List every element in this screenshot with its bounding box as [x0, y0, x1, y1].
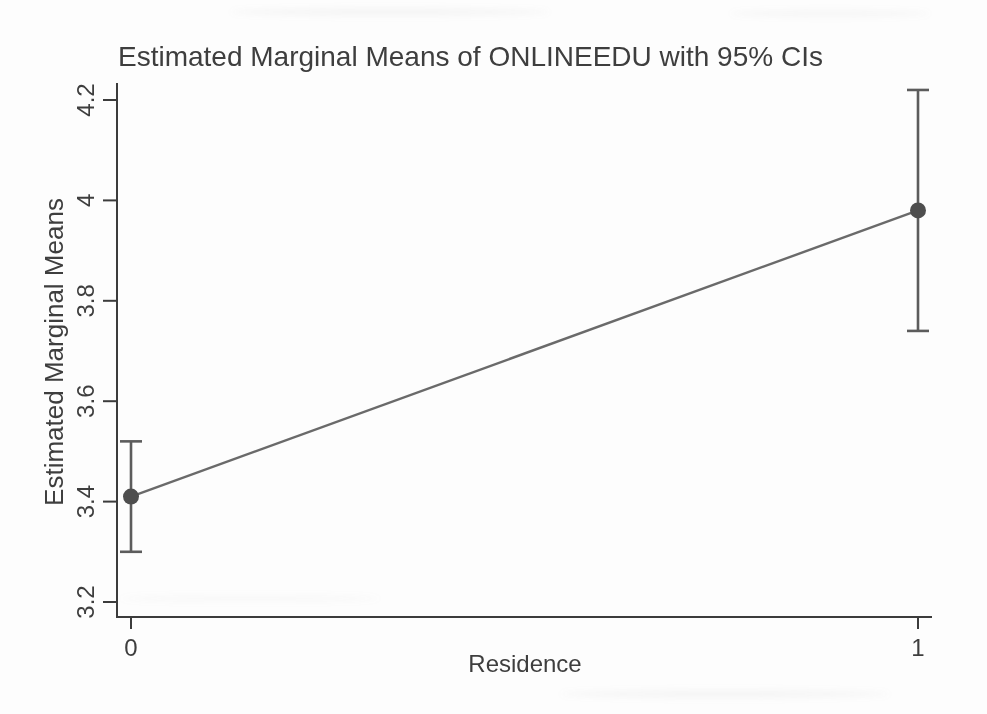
mean-connecting-line: [131, 210, 918, 496]
y-axis-tick-label: 4.2: [72, 83, 99, 116]
mean-marker: [123, 489, 139, 505]
y-axis-tick-label: 3.4: [72, 485, 99, 518]
y-axis-title: Estimated Marginal Means: [39, 198, 69, 506]
y-axis-tick-label: 3.6: [72, 385, 99, 418]
x-axis-tick-label: 1: [911, 634, 924, 661]
axis-lines: [117, 83, 932, 617]
y-axis-tick-label: 4: [72, 194, 99, 207]
x-axis-title: Residence: [468, 650, 581, 677]
x-axis-tick-label: 0: [124, 634, 137, 661]
estimated-marginal-means-chart: 3.23.43.63.844.201Estimated Marginal Mea…: [0, 0, 987, 714]
y-axis-tick-label: 3.2: [72, 585, 99, 618]
mean-marker: [910, 202, 926, 218]
chart-title: Estimated Marginal Means of ONLINEEDU wi…: [118, 41, 823, 72]
y-axis-tick-label: 3.8: [72, 284, 99, 317]
scanned-figure-page: 3.23.43.63.844.201Estimated Marginal Mea…: [0, 0, 987, 714]
